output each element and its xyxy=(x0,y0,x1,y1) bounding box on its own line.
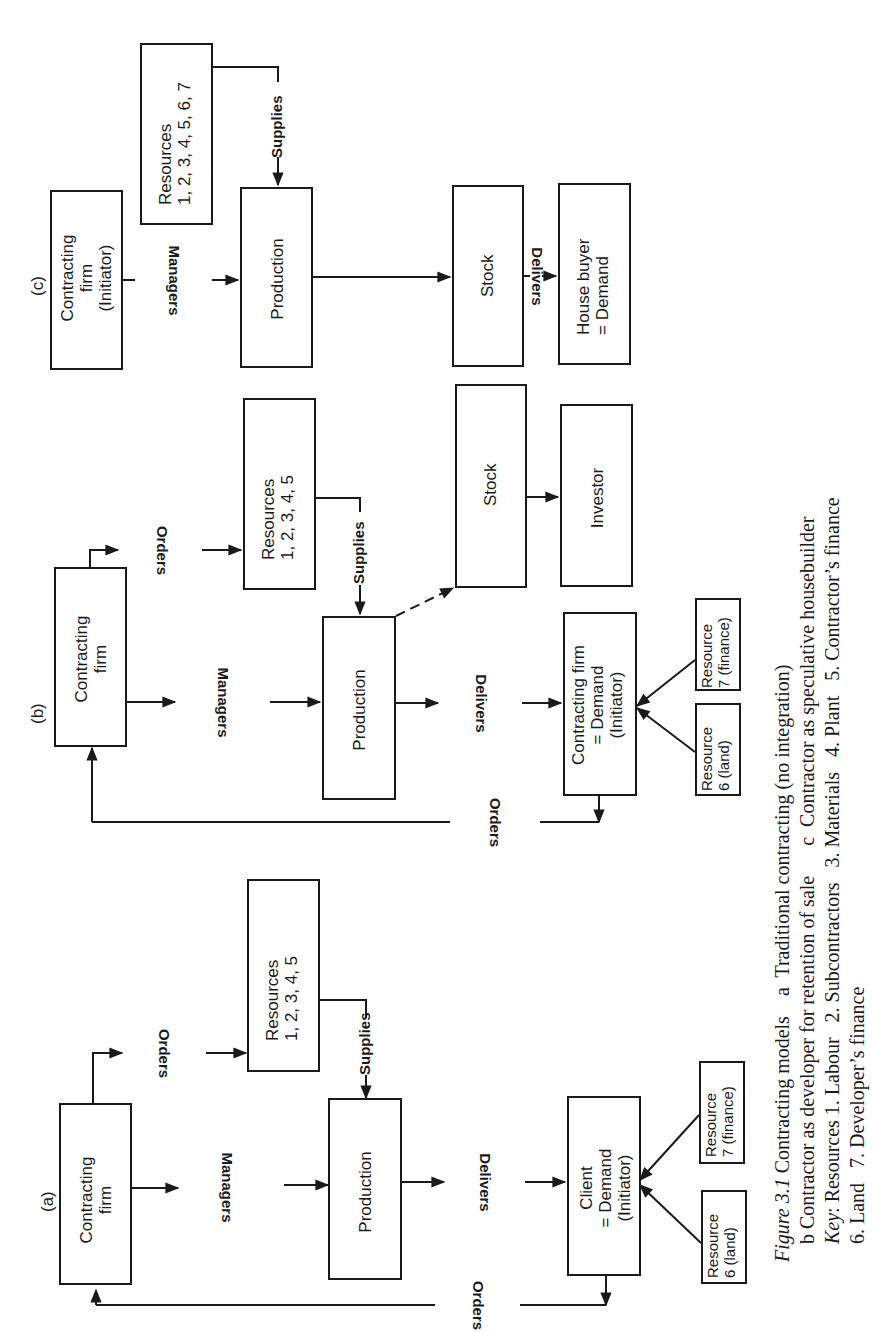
caption-line4: 6. Land 7. Developer’s finance xyxy=(845,987,870,1244)
c-stock-box: Stock xyxy=(452,185,524,367)
a-resource7-box: Resource 7 (finance) xyxy=(699,1061,745,1164)
b-flow-orders-bottom: Orders xyxy=(487,780,504,866)
b-resources-box: Resources 1, 2, 3, 4, 5 xyxy=(243,398,316,590)
a-contracting-firm-label: Contracting firm xyxy=(77,1145,115,1255)
c-house-buyer-box: House buyer = Demand xyxy=(558,183,631,365)
caption-figure-number: Figure 3.1 xyxy=(771,1178,793,1262)
figure-canvas: (c) Contracting firm (Initiator) Resourc… xyxy=(0,0,887,1332)
a-resource6-label: Resource 6 (land) xyxy=(705,1193,739,1278)
a-resources-box: Resources 1, 2, 3, 4, 5 xyxy=(247,879,320,1072)
a-client-label: Client = Demand (Initiator) xyxy=(577,1128,634,1248)
c-stock-label: Stock xyxy=(478,257,497,297)
c-flow-supplies: Supplies xyxy=(269,95,286,158)
b-production-box: Production xyxy=(322,616,396,800)
b-resource7-box: Resource 7 (finance) xyxy=(695,598,741,691)
c-production-label: Production xyxy=(268,229,287,329)
b-flow-delivers: Delivers xyxy=(473,665,490,743)
figure-caption: Figure 3.1 Contracting models a Traditio… xyxy=(770,665,795,1263)
caption-line3: : Resources 1. Labour 2. Subcontractors … xyxy=(821,497,843,1213)
b-contracting-firm-box: Contracting firm xyxy=(54,567,127,747)
a-flow-orders-top: Orders xyxy=(156,1014,173,1094)
connector-lines xyxy=(0,0,887,1332)
b-demand-box: Contracting firm = Demand (Initiator) xyxy=(563,612,637,796)
a-production-box: Production xyxy=(328,1098,402,1280)
a-resources-label: Resources 1, 2, 3, 4, 5 xyxy=(263,911,301,1041)
c-contracting-firm-box: Contracting firm (Initiator) xyxy=(50,190,123,370)
b-contracting-firm-label: Contracting firm xyxy=(72,609,110,709)
b-investor-label: Investor xyxy=(588,458,607,538)
caption-key-line: Key: Resources 1. Labour 2. Subcontracto… xyxy=(820,497,845,1244)
c-resources-box: Resources 1, 2, 3, 4, 5, 6, 7 xyxy=(140,43,213,225)
a-flow-orders-bottom: Orders xyxy=(470,1264,487,1332)
b-flow-orders-top: Orders xyxy=(154,511,171,591)
b-flow-supplies: Supplies xyxy=(351,521,368,584)
caption-line1: Contracting models a Traditional contrac… xyxy=(771,665,793,1179)
b-resource6-box: Resource 6 (land) xyxy=(695,703,741,796)
caption-key-label: Key xyxy=(821,1213,843,1244)
a-resource6-box: Resource 6 (land) xyxy=(701,1190,747,1284)
panel-label-b: (b) xyxy=(28,703,48,724)
c-house-buyer-label: House buyer = Demand xyxy=(574,225,612,335)
b-stock-box: Stock xyxy=(455,384,527,588)
panel-label-a: (a) xyxy=(38,1191,58,1212)
a-flow-delivers: Delivers xyxy=(477,1144,494,1222)
a-resource7-label: Resource 7 (finance) xyxy=(703,1065,737,1157)
c-flow-delivers: Delivers xyxy=(529,240,546,314)
b-demand-label: Contracting firm = Demand (Initiator) xyxy=(569,620,626,790)
panel-label-c: (c) xyxy=(28,276,48,296)
a-flow-managers: Managers xyxy=(219,1143,236,1233)
a-contracting-firm-box: Contracting firm xyxy=(59,1103,132,1285)
a-flow-supplies: Supplies xyxy=(357,1012,374,1075)
caption-line2: b Contractor as developer for retention … xyxy=(795,516,820,1244)
b-investor-box: Investor xyxy=(560,404,633,587)
c-flow-managers: Managers xyxy=(166,239,183,323)
b-flow-managers: Managers xyxy=(215,658,232,748)
c-resources-label: Resources 1, 2, 3, 4, 5, 6, 7 xyxy=(156,55,194,205)
b-resources-label: Resources 1, 2, 3, 4, 5 xyxy=(259,430,297,560)
a-production-label: Production xyxy=(356,1142,375,1242)
b-stock-label: Stock xyxy=(481,466,500,506)
c-contracting-firm-label: Contracting firm (Initiator) xyxy=(58,218,115,338)
b-resource6-label: Resource 6 (land) xyxy=(699,706,733,791)
c-production-box: Production xyxy=(240,187,313,368)
a-client-box: Client = Demand (Initiator) xyxy=(567,1096,641,1276)
b-resource7-label: Resource 7 (finance) xyxy=(699,600,733,688)
b-production-label: Production xyxy=(350,660,369,760)
